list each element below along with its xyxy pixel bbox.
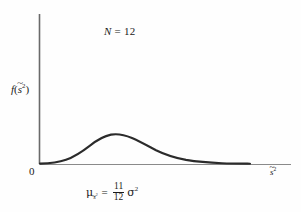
caption-equals: = xyxy=(102,187,108,198)
y-axis-paren-close: ) xyxy=(25,83,29,95)
x-axis-label: ~s2 xyxy=(270,168,276,177)
fraction-denominator: 12 xyxy=(113,192,125,203)
tilde-accent-icon: ~ xyxy=(17,79,23,88)
sigma-symbol: σ xyxy=(127,186,135,199)
figure-canvas: N=12 f(~s2) ~s2 0 μ~s2 = 11 12 σ2 xyxy=(0,0,301,212)
tilde-accent-icon: ~ xyxy=(93,194,97,199)
y-axis-label: f(~s2) xyxy=(11,84,29,95)
tilde-accent-icon: ~ xyxy=(269,164,274,171)
fraction-eleven-twelfths: 11 12 xyxy=(113,182,125,203)
y-axis-variable: ~s xyxy=(18,84,22,95)
x-axis-variable: ~s xyxy=(270,168,274,177)
density-curve xyxy=(40,134,250,164)
mean-caption: μ~s2 = 11 12 σ2 xyxy=(86,182,138,203)
sample-size-value: 12 xyxy=(124,25,135,37)
sigma-exponent: 2 xyxy=(135,185,138,192)
sample-size-equals: = xyxy=(115,25,121,37)
origin-label: 0 xyxy=(29,166,35,177)
sample-size-symbol: N xyxy=(104,25,112,37)
sample-size-annotation: N=12 xyxy=(104,26,135,37)
fraction-numerator: 11 xyxy=(113,182,124,192)
distribution-plot xyxy=(0,0,301,212)
sigma-squared-group: σ2 xyxy=(127,187,138,198)
mu-subscript: ~s2 xyxy=(93,193,97,200)
mu-symbol-group: μ~s2 xyxy=(86,187,98,198)
